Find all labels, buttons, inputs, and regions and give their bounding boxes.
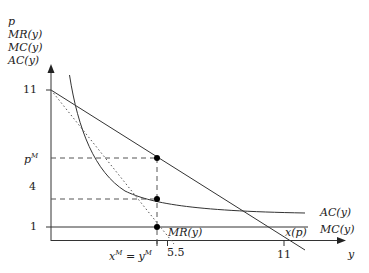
y-tick-label-11: 11	[23, 84, 37, 96]
ac-curve	[70, 75, 306, 213]
x-tick-label-11: 11	[277, 249, 291, 261]
y-tick-label-4: 4	[29, 181, 36, 193]
monopoly-diagram: p MR(y) MC(y) AC(y) 11 pM 4 1 xM = yM 5.…	[0, 0, 369, 273]
y-axis-label-mr: MR(y)	[8, 29, 42, 41]
ac-label: AC(y)	[320, 207, 351, 219]
y-tick-label-1: 1	[30, 221, 37, 233]
mr-equals-mc-point	[154, 224, 160, 230]
y-axis-label-ac: AC(y)	[8, 55, 39, 67]
mr-label: MR(y)	[168, 227, 202, 239]
x-axis-label: y	[348, 249, 354, 261]
monopoly-price-point	[154, 155, 160, 161]
mr-curve	[51, 90, 174, 244]
x-tick-label-5-5: 5.5	[167, 247, 185, 259]
demand-label: x(p)	[285, 227, 307, 239]
x-tick-label-ym: xM = yM	[109, 247, 152, 263]
y-axis-label-mc: MC(y)	[8, 42, 42, 54]
y-tick-label-pm: pM	[24, 150, 38, 166]
mc-label: MC(y)	[320, 224, 354, 236]
x-axis-arrow-icon	[337, 237, 346, 244]
average-cost-point	[154, 196, 160, 202]
y-axis-arrow-icon	[48, 64, 55, 73]
y-axis-label-p: p	[8, 16, 15, 28]
